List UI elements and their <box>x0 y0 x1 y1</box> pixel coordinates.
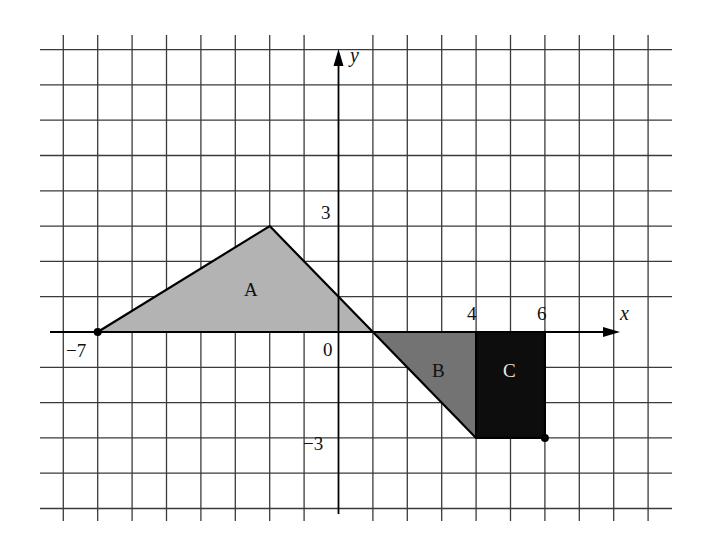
y-axis-label: y <box>348 44 359 67</box>
grid-lines <box>40 35 672 521</box>
tick-label-x-4: 4 <box>467 303 477 324</box>
coordinate-diagram: y x 0 −7 4 6 3 −3 A B C <box>0 0 704 541</box>
tick-label-x-6: 6 <box>537 303 547 324</box>
x-axis-arrow-icon <box>603 327 620 337</box>
tick-label-x-neg7: −7 <box>66 340 86 361</box>
coordinate-grid-svg: y x 0 −7 4 6 3 −3 A B C <box>0 0 704 541</box>
y-axis-arrow-icon <box>334 49 344 66</box>
tick-label-y-neg3: −3 <box>303 433 323 454</box>
axes-layer <box>50 49 620 514</box>
shape-label-b: B <box>432 360 445 381</box>
point-6-neg3 <box>541 434 549 442</box>
shape-c <box>476 332 545 438</box>
tick-label-y-3: 3 <box>321 202 331 223</box>
shape-label-a: A <box>244 279 258 300</box>
shape-b <box>373 332 476 438</box>
origin-label: 0 <box>323 339 333 360</box>
point-neg7-0 <box>94 328 102 336</box>
shape-label-c: C <box>503 360 516 381</box>
x-axis-label: x <box>619 302 629 324</box>
